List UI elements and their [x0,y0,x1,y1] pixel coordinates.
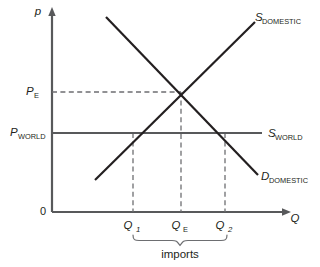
pe-label-sub: E [34,91,39,100]
guide-lines-group [52,92,225,212]
q1-label-base: Q [124,219,133,231]
s-domestic-curve [95,22,255,180]
pworld-tick-label: P WORLD [10,126,46,141]
imports-label: imports [161,248,199,260]
d-domestic-label-sub: DOMESTIC [269,176,309,185]
supply-demand-diagram: p Q 0 S DOMESTIC S WORLD D DOMESTIC [0,0,320,267]
x-axis-label: Q [291,212,300,224]
q1-tick-label: Q 1 [124,219,141,234]
qe-label-sub: E [183,225,188,234]
y-axis-arrowhead [48,7,55,16]
q2-tick-label: Q 2 [216,219,233,234]
pe-label-base: P [26,85,34,97]
s-world-label-sub: WORLD [275,133,303,142]
axes-group [48,7,291,216]
imports-brace [133,235,227,246]
pworld-label-base: P [10,126,18,138]
s-world-label: S WORLD [268,127,303,142]
d-domestic-label: D DOMESTIC [261,170,309,185]
q2-label-base: Q [216,219,225,231]
y-axis-label: p [34,5,42,17]
q1-label-sub: 1 [136,225,140,234]
qe-label-base: Q [172,219,181,231]
diagram-canvas: p Q 0 S DOMESTIC S WORLD D DOMESTIC [0,0,320,267]
qe-tick-label: Q E [172,219,188,234]
origin-label: 0 [40,205,46,217]
s-domestic-label-sub: DOMESTIC [262,17,302,26]
pe-tick-label: P E [26,85,39,100]
s-domestic-label: S DOMESTIC [255,11,302,26]
q2-label-sub: 2 [227,225,233,234]
pworld-label-sub: WORLD [18,132,46,141]
